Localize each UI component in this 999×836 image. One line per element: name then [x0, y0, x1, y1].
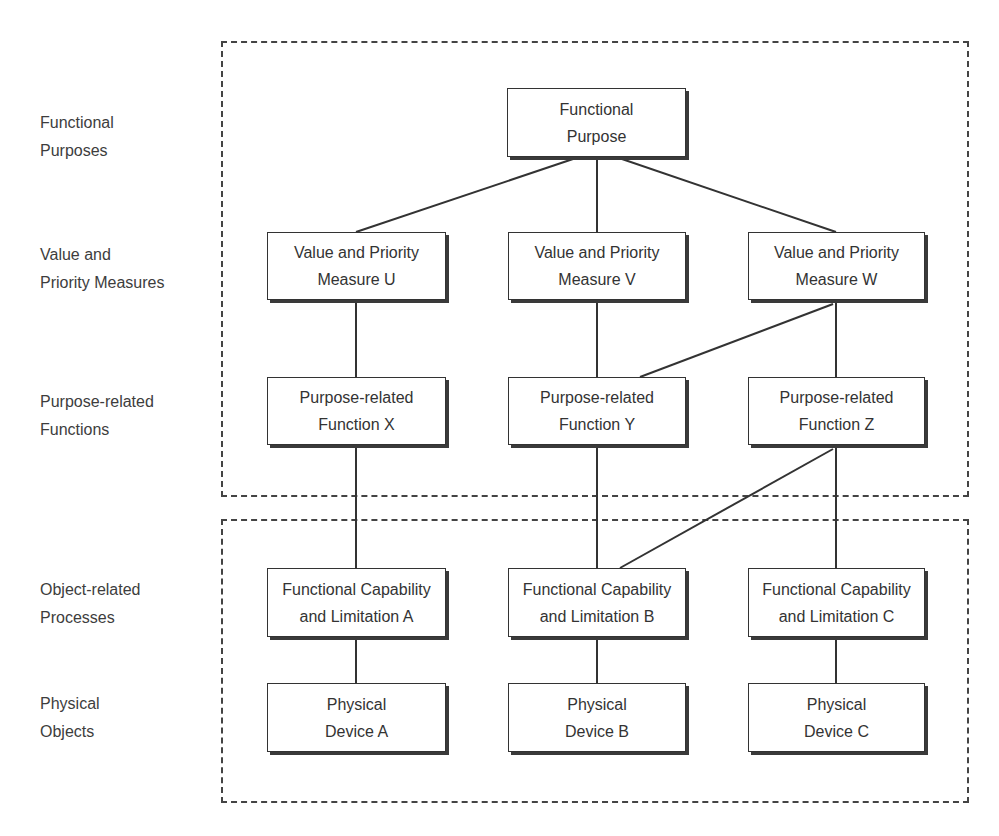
- node-label: Function Y: [559, 411, 635, 438]
- node-device-b: Physical Device B: [508, 683, 686, 752]
- node-measure-u: Value and Priority Measure U: [267, 232, 446, 300]
- node-label: Functional Capability: [762, 576, 911, 603]
- node-device-c: Physical Device C: [748, 683, 925, 752]
- node-measure-v: Value and Priority Measure V: [508, 232, 686, 300]
- node-measure-w: Value and Priority Measure W: [748, 232, 925, 300]
- node-device-a: Physical Device A: [267, 683, 446, 752]
- node-function-y: Purpose-related Function Y: [508, 377, 686, 445]
- node-functional-purpose: Functional Purpose: [507, 88, 686, 157]
- node-label: Purpose-related: [300, 384, 414, 411]
- node-label: Functional Capability: [282, 576, 431, 603]
- node-label: and Limitation B: [540, 603, 655, 630]
- node-label: Functional Capability: [523, 576, 672, 603]
- node-label: Function X: [318, 411, 394, 438]
- node-label: Purpose: [567, 123, 627, 150]
- node-label: Purpose-related: [780, 384, 894, 411]
- node-function-x: Purpose-related Function X: [267, 377, 446, 445]
- node-label: Value and Priority: [294, 239, 419, 266]
- node-label: Function Z: [799, 411, 875, 438]
- node-label: Physical: [327, 691, 387, 718]
- node-label: Measure U: [317, 266, 395, 293]
- node-label: Functional: [560, 96, 634, 123]
- edge-z-to-b: [620, 449, 833, 568]
- node-label: Device B: [565, 718, 629, 745]
- edge-w-to-y: [640, 304, 833, 377]
- node-label: Physical: [807, 691, 867, 718]
- node-capability-a: Functional Capability and Limitation A: [267, 568, 446, 637]
- node-label: Device C: [804, 718, 869, 745]
- node-label: Measure V: [558, 266, 635, 293]
- node-function-z: Purpose-related Function Z: [748, 377, 925, 445]
- node-capability-c: Functional Capability and Limitation C: [748, 568, 925, 637]
- node-label: and Limitation A: [300, 603, 414, 630]
- node-label: Physical: [567, 691, 627, 718]
- node-label: Value and Priority: [534, 239, 659, 266]
- node-label: Device A: [325, 718, 388, 745]
- node-label: Value and Priority: [774, 239, 899, 266]
- node-label: and Limitation C: [779, 603, 895, 630]
- edge-purpose-to-u: [356, 158, 576, 232]
- edge-purpose-to-w: [619, 158, 836, 232]
- node-label: Measure W: [796, 266, 878, 293]
- node-label: Purpose-related: [540, 384, 654, 411]
- node-capability-b: Functional Capability and Limitation B: [508, 568, 686, 637]
